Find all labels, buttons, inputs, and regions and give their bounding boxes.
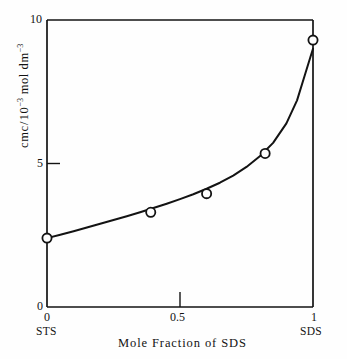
axes-frame xyxy=(47,20,313,307)
y-axis-title-exponent: −3 xyxy=(16,98,25,107)
data-point xyxy=(202,189,211,198)
x-axis-tick-label-0-5: 0.5 xyxy=(170,311,185,323)
y-axis-tick-label-0: 0 xyxy=(37,300,43,312)
x-axis-title: Mole Fraction of SDS xyxy=(118,337,247,350)
plot-canvas xyxy=(0,0,347,359)
figure-cmc-vs-mole-fraction: 10 5 0 0 0.5 1 STS SDS Mole Fraction of … xyxy=(0,0,347,359)
data-point xyxy=(308,35,317,44)
fitted-curve xyxy=(47,49,313,238)
x-axis-endpoint-label-sts: STS xyxy=(36,326,57,338)
y-axis-title-slash: / xyxy=(17,120,31,125)
y-axis-title-unit: mol dm xyxy=(17,52,31,98)
data-point xyxy=(146,208,155,217)
y-axis-title-mantissa: 10 xyxy=(17,107,31,121)
x-axis-endpoint-label-sds: SDS xyxy=(300,326,322,338)
x-axis-tick-label-0: 0 xyxy=(44,311,50,323)
y-axis-tick-label-5: 5 xyxy=(37,157,43,169)
data-point xyxy=(261,149,270,158)
y-axis-title-unit-exponent: −3 xyxy=(16,44,25,53)
x-axis-tick-label-1: 1 xyxy=(311,311,317,323)
y-axis-title-quantity: cmc xyxy=(17,125,31,148)
data-point xyxy=(42,234,51,243)
y-axis-tick-label-10: 10 xyxy=(30,13,42,25)
tick-marks xyxy=(47,164,180,308)
